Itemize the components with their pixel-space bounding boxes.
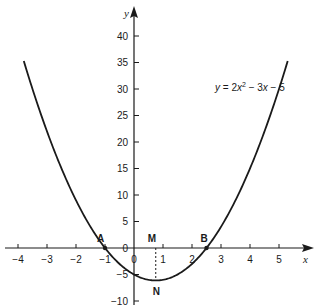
point-label-m: M bbox=[148, 233, 156, 244]
y-tick-label: 5 bbox=[122, 216, 128, 227]
y-tick-label: 0 bbox=[122, 243, 128, 254]
y-tick-label: 20 bbox=[117, 137, 129, 148]
y-tick-label: −10 bbox=[111, 296, 128, 307]
x-tick-label: −4 bbox=[12, 254, 24, 265]
x-tick-label: −1 bbox=[99, 254, 111, 265]
x-tick-label-zero: 0 bbox=[131, 254, 137, 265]
equation-label: y = 2x2 − 3x − 5 bbox=[214, 81, 285, 93]
y-axis-label: y bbox=[123, 7, 129, 19]
point-marker-a bbox=[103, 246, 107, 250]
x-tick-label: 4 bbox=[247, 254, 253, 265]
x-tick-label: 5 bbox=[276, 254, 282, 265]
x-tick-label: −3 bbox=[41, 254, 53, 265]
x-tick-label: 1 bbox=[160, 254, 166, 265]
point-marker-b bbox=[204, 246, 208, 250]
point-label-b: B bbox=[201, 233, 208, 244]
y-tick-label: 10 bbox=[117, 190, 129, 201]
x-axis-label: x bbox=[302, 253, 308, 265]
y-tick-label: 35 bbox=[117, 57, 129, 68]
ticks: −4−3−2−1123450−10−50510152025303540 bbox=[12, 31, 282, 307]
y-tick-label: 25 bbox=[117, 110, 129, 121]
y-tick-label: 15 bbox=[117, 163, 129, 174]
point-annotations: ABMN bbox=[97, 233, 209, 297]
point-label-n: N bbox=[153, 286, 160, 297]
x-tick-label: 3 bbox=[218, 254, 224, 265]
y-tick-label: 40 bbox=[117, 31, 129, 42]
y-tick-label: 30 bbox=[117, 84, 129, 95]
point-label-a: A bbox=[97, 233, 104, 244]
x-tick-label: −2 bbox=[70, 254, 82, 265]
parabola-chart: −4−3−2−1123450−10−50510152025303540 ABMN… bbox=[0, 0, 317, 308]
